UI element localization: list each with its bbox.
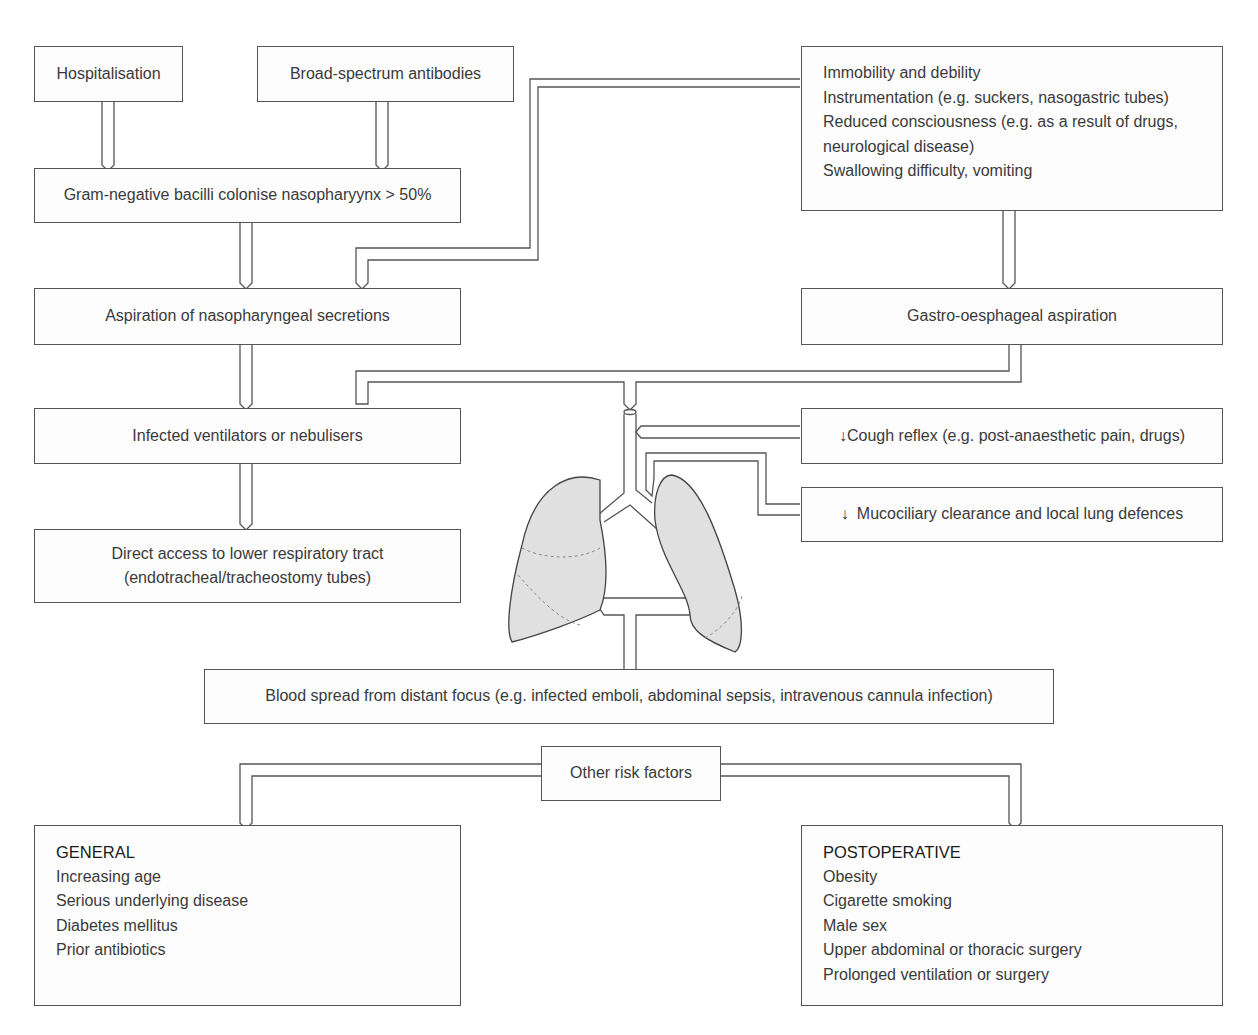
factor-item: Instrumentation (e.g. suckers, nasogastr… [823,86,1201,111]
gastro-box: Gastro-oesphageal aspiration [801,288,1223,345]
decrease-arrow-icon: ↓ [839,424,847,449]
colonise-box: Gram-negative bacilli colonise nasophary… [34,168,461,223]
general-item: Serious underlying disease [56,889,439,914]
aspiration-label: Aspiration of nasopharyngeal secretions [105,304,390,329]
ventilators-box: Infected ventilators or nebulisers [34,408,461,464]
cough-reflex-label: Cough reflex (e.g. post-anaesthetic pain… [847,424,1185,449]
antibodies-label: Broad-spectrum antibodies [290,62,481,87]
cough-reflex-box: ↓ Cough reflex (e.g. post-anaesthetic pa… [801,408,1223,464]
hospitalisation-label: Hospitalisation [56,62,160,87]
postoperative-item: Prolonged ventilation or surgery [823,963,1201,988]
aspiration-box: Aspiration of nasopharyngeal secretions [34,288,461,345]
predisposing-factors-box: Immobility and debility Instrumentation … [801,46,1223,211]
factor-item: neurological disease) [823,135,1201,160]
mucociliary-label: Mucociliary clearance and local lung def… [857,502,1183,527]
general-item: Diabetes mellitus [56,914,439,939]
general-risk-box: GENERAL Increasing age Serious underlyin… [34,825,461,1006]
colonise-label: Gram-negative bacilli colonise nasophary… [64,183,432,208]
general-title: GENERAL [56,840,439,865]
direct-access-line-1: Direct access to lower respiratory tract [111,542,383,567]
hospitalisation-box: Hospitalisation [34,46,183,102]
antibodies-box: Broad-spectrum antibodies [257,46,514,102]
gastro-label: Gastro-oesphageal aspiration [907,304,1117,329]
direct-access-line-2: (endotracheal/tracheostomy tubes) [124,566,371,591]
postoperative-risk-box: POSTOPERATIVE Obesity Cigarette smoking … [801,825,1223,1006]
general-item: Prior antibiotics [56,938,439,963]
other-risk-box: Other risk factors [541,746,721,801]
factor-item: Reduced consciousness (e.g. as a result … [823,110,1201,135]
ventilators-label: Infected ventilators or nebulisers [132,424,362,449]
postoperative-item: Upper abdominal or thoracic surgery [823,938,1201,963]
postoperative-item: Obesity [823,865,1201,890]
pneumonia-pathogenesis-diagram: Hospitalisation Broad-spectrum antibodie… [0,0,1258,1035]
postoperative-title: POSTOPERATIVE [823,840,1201,865]
postoperative-item: Male sex [823,914,1201,939]
factor-item: Swallowing difficulty, vomiting [823,159,1201,184]
direct-access-box: Direct access to lower respiratory tract… [34,529,461,603]
blood-spread-label: Blood spread from distant focus (e.g. in… [265,684,993,709]
factor-item: Immobility and debility [823,61,1201,86]
other-risk-label: Other risk factors [570,761,692,786]
general-item: Increasing age [56,865,439,890]
mucociliary-box: ↓ Mucociliary clearance and local lung d… [801,487,1223,542]
decrease-arrow-icon: ↓ [841,502,849,527]
postoperative-item: Cigarette smoking [823,889,1201,914]
blood-spread-box: Blood spread from distant focus (e.g. in… [204,669,1054,724]
